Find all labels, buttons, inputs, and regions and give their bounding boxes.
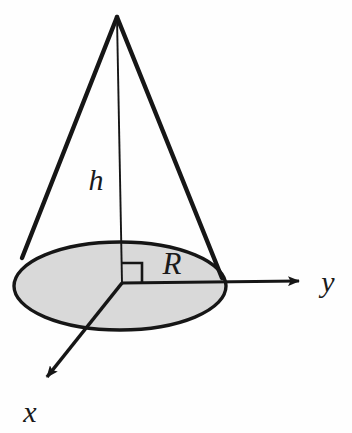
label-axis-y: y — [318, 265, 335, 298]
label-radius: R — [162, 246, 182, 281]
cone-slant-right — [117, 17, 222, 278]
axis-y-line — [122, 281, 299, 283]
cone-figure-svg: h R y x — [0, 0, 352, 433]
label-axis-x: x — [22, 395, 37, 428]
cone-slant-left — [22, 17, 117, 258]
cone-diagram: h R y x — [0, 0, 352, 433]
label-height: h — [89, 163, 104, 196]
